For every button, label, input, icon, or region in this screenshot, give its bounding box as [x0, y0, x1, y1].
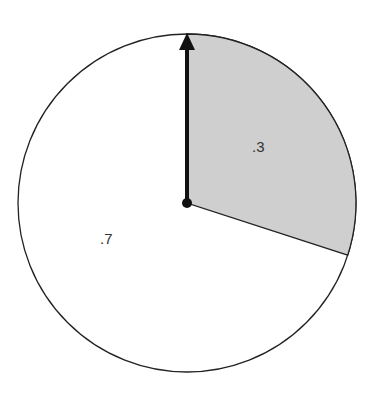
spinner-diagram: .3 .7: [0, 0, 373, 400]
sector-label-0.7: .7: [100, 230, 113, 247]
sector-label-0.3: .3: [252, 138, 265, 155]
